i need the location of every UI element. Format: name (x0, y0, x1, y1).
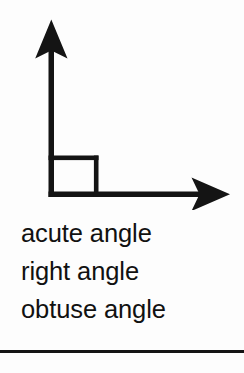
right-angle-marker-top-edge (49, 156, 99, 161)
right-angle-marker-right-edge (94, 156, 99, 198)
angle-type-label-list: acute angle right angle obtuse angle (21, 214, 241, 328)
label-right-angle: right angle (21, 252, 241, 290)
bottom-horizontal-rule (0, 350, 244, 353)
horizontal-axis-shaft (49, 192, 207, 198)
page-root: acute angle right angle obtuse angle (0, 0, 244, 373)
label-obtuse-angle: obtuse angle (21, 290, 241, 328)
right-angle-axes-diagram (0, 0, 244, 210)
label-acute-angle: acute angle (21, 214, 241, 252)
vertical-axis-shaft (49, 50, 55, 197)
